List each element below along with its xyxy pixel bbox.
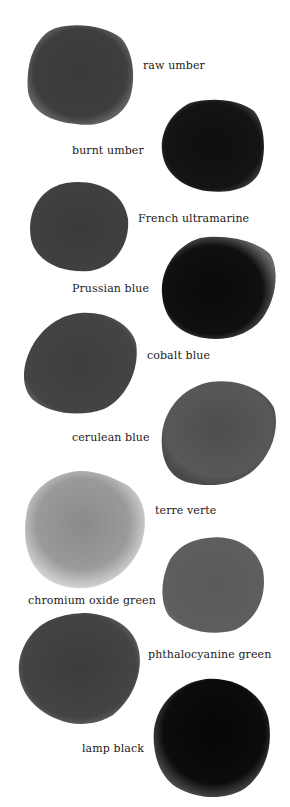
burnt-umber-label: burnt umber (72, 145, 144, 156)
cobalt-blue-swatch (20, 311, 138, 416)
raw-umber-label: raw umber (143, 60, 205, 71)
chromium-oxide-green-label: chromium oxide green (28, 595, 156, 606)
prussian-blue-label: Prussian blue (72, 283, 149, 294)
french-ultramarine-label: French ultramarine (138, 213, 249, 224)
lamp-black-label: lamp black (82, 743, 144, 754)
raw-umber-swatch (26, 22, 136, 128)
terre-verte-label: terre verte (155, 505, 216, 516)
phthalocyanine-green-swatch (17, 611, 141, 726)
terre-verte-swatch (23, 469, 148, 591)
cerulean-blue-label: cerulean blue (72, 432, 150, 443)
chromium-oxide-green-swatch (159, 536, 266, 634)
cerulean-blue-swatch (160, 380, 278, 488)
phthalocyanine-green-label: phthalocyanine green (148, 649, 271, 660)
cobalt-blue-label: cobalt blue (147, 350, 210, 361)
lamp-black-swatch (152, 677, 272, 799)
burnt-umber-swatch (160, 97, 267, 194)
prussian-blue-swatch (160, 236, 278, 341)
french-ultramarine-swatch (28, 181, 129, 272)
